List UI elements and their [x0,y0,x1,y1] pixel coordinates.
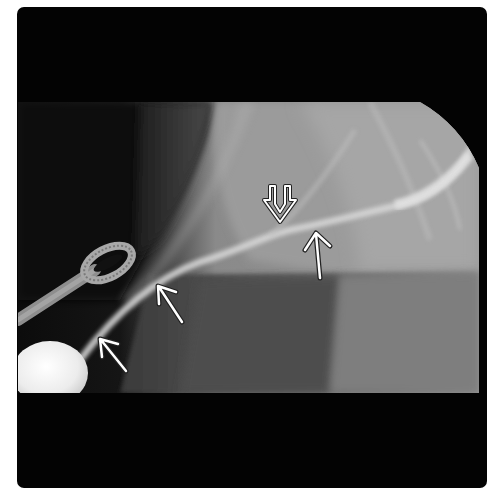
xray-field [0,100,479,405]
round-radiopaque-object [12,341,88,405]
